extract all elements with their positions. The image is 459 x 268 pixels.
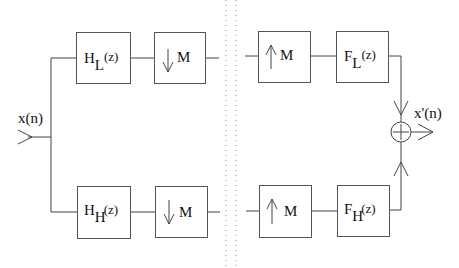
input-label: x(n) (18, 110, 43, 127)
input-node: x(n) (18, 110, 51, 144)
output-label: x'(n) (414, 105, 442, 122)
expander-low: M (259, 32, 311, 83)
adder-node (391, 122, 411, 142)
expander-high: M (260, 186, 312, 238)
synthesis-filter-low: FL(z) (337, 32, 389, 83)
output-node: x'(n) (411, 105, 442, 140)
down-factor-high: M (179, 204, 192, 220)
wire-fh-to-adder (390, 142, 401, 210)
filter-bank-diagram: x(n) HL(z) M HH(z) M M (0, 0, 459, 268)
decimator-high: M (156, 187, 208, 238)
decimator-low: M (155, 33, 206, 84)
up-factor-low: M (280, 47, 293, 63)
analysis-filter-low: HL(z) (77, 33, 131, 84)
up-factor-high: M (284, 203, 297, 219)
analysis-filter-high: HH(z) (78, 187, 131, 239)
down-factor-low: M (177, 49, 190, 65)
synthesis-filter-high: FH(z) (338, 186, 390, 237)
